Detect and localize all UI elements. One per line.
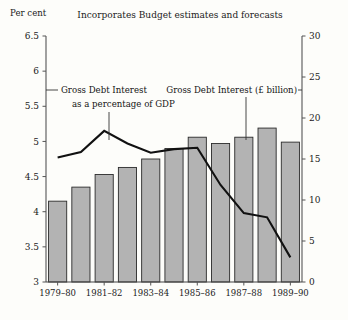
- left-tick-label-3.5: 3.5: [25, 242, 40, 252]
- bars-group: [49, 128, 300, 282]
- x-tick-label-1985–86: 1985–86: [179, 288, 216, 298]
- annotation-gdp-line2: as a percentage of GDP: [72, 99, 175, 109]
- right-tick-label-25: 25: [309, 72, 321, 82]
- x-tick-label-1987–88: 1987–88: [225, 288, 262, 298]
- x-tick-label-1989–90: 1989–90: [272, 288, 309, 298]
- annotation-billion-label: Gross Debt Interest (£ billion): [166, 85, 297, 95]
- bar-1986–87: [211, 144, 229, 282]
- x-tick-label-1983–84: 1983–84: [132, 288, 169, 298]
- right-tick-label-15: 15: [309, 154, 321, 164]
- chart-container: Incorporates Budget estimates and foreca…: [0, 0, 348, 320]
- bar-1987–88: [235, 137, 253, 282]
- right-tick-label-5: 5: [309, 236, 315, 246]
- left-tick-label-6.5: 6.5: [25, 31, 40, 41]
- bar-1982–83: [118, 167, 136, 282]
- bar-1984–85: [165, 148, 183, 282]
- bar-1983–84: [142, 159, 160, 282]
- bar-1979–80: [49, 201, 67, 282]
- left-tick-label-5.5: 5.5: [25, 101, 40, 111]
- annotation-gdp-line1: Gross Debt Interest: [61, 85, 147, 95]
- debt-interest-chart: Incorporates Budget estimates and foreca…: [0, 0, 348, 320]
- bar-1980–81: [72, 187, 90, 282]
- right-tick-label-30: 30: [309, 31, 321, 41]
- bar-1989–90: [281, 142, 299, 282]
- left-tick-label-3: 3: [33, 277, 39, 287]
- bar-1988–89: [258, 128, 276, 282]
- left-axis-caption: Per cent: [10, 8, 47, 18]
- left-tick-label-6: 6: [33, 66, 39, 76]
- right-tick-label-10: 10: [309, 195, 321, 205]
- x-tick-label-1979–80: 1979–80: [39, 288, 76, 298]
- x-tick-label-1981–82: 1981–82: [86, 288, 123, 298]
- left-tick-label-4: 4: [33, 207, 39, 217]
- left-tick-label-4.5: 4.5: [25, 172, 40, 182]
- right-tick-label-20: 20: [309, 113, 321, 123]
- right-tick-label-0: 0: [309, 277, 315, 287]
- bar-1981–82: [95, 174, 113, 282]
- chart-title: Incorporates Budget estimates and foreca…: [77, 10, 283, 20]
- left-tick-label-5: 5: [33, 137, 39, 147]
